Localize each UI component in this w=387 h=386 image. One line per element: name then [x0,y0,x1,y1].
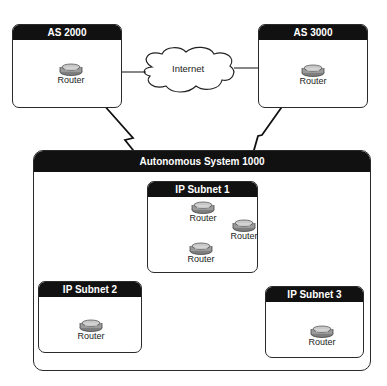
router-subnet2[interactable]: Router [76,318,106,344]
router-as2000[interactable]: Router [56,62,86,88]
router-label: Router [301,337,343,347]
router-subnet1-a[interactable]: Router [188,200,218,226]
router-subnet1-b[interactable]: Router [229,218,259,244]
router-subnet3[interactable]: Router [307,324,337,350]
subnet3-header: IP Subnet 3 [266,287,363,302]
router-icon [59,62,83,76]
subnet2-header: IP Subnet 2 [39,282,141,297]
router-label: Router [70,331,112,341]
as1000-header: Autonomous System 1000 [34,151,370,172]
router-icon [310,324,334,338]
router-icon [191,200,215,214]
router-icon [79,318,103,332]
internet-label: Internet [172,63,204,74]
router-label: Router [223,231,265,241]
router-subnet1-c[interactable]: Router [186,241,216,267]
router-icon [301,63,325,77]
router-label: Router [292,76,334,86]
router-icon [189,241,213,255]
as2000-header: AS 2000 [13,25,121,40]
subnet1-header: IP Subnet 1 [148,182,257,197]
router-label: Router [182,213,224,223]
as3000-header: AS 3000 [259,25,367,40]
router-label: Router [180,254,222,264]
router-icon [232,218,256,232]
router-label: Router [50,75,92,85]
router-as3000[interactable]: Router [298,63,328,89]
